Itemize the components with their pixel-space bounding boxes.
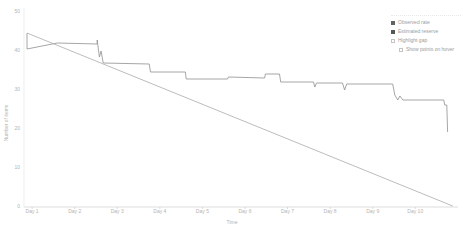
x-tick-label: Day 2: [64, 209, 86, 214]
x-tick-label: Day 10: [404, 209, 426, 214]
legend-item-label: Show points on hover: [406, 47, 454, 52]
legend-item-highlight-gap[interactable]: Highlight gap: [391, 38, 461, 43]
x-tick-label: Day 1: [21, 209, 43, 214]
x-tick-label: Day 4: [149, 209, 171, 214]
y-tick-label: 40: [4, 48, 20, 53]
series-swatch-icon: [391, 30, 395, 34]
x-tick-label: Day 8: [319, 209, 341, 214]
legend-item-observed-rate[interactable]: Observed rate: [391, 20, 461, 25]
x-tick-label: Day 3: [106, 209, 128, 214]
x-axis-title: Time: [0, 220, 464, 225]
chart-window: Day 1Day 2Day 3Day 4Day 5Day 6Day 7Day 8…: [0, 0, 464, 236]
y-axis-title: Number of items: [4, 105, 9, 142]
y-tick-label: 0: [4, 204, 20, 209]
x-tick-label: Day 9: [362, 209, 384, 214]
checkbox-icon[interactable]: [391, 39, 395, 43]
x-tick-label: Day 5: [191, 209, 213, 214]
checkbox-icon[interactable]: [399, 48, 403, 52]
legend-item-label: Estimated reserve: [398, 29, 438, 34]
series-swatch-icon: [391, 21, 395, 25]
y-tick-label: 50: [4, 9, 20, 14]
series-line-0: [27, 33, 448, 132]
legend-item-label: Observed rate: [398, 20, 430, 25]
legend-item-estimated-reserve[interactable]: Estimated reserve: [391, 29, 461, 34]
x-tick-label: Day 7: [277, 209, 299, 214]
y-tick-label: 30: [4, 87, 20, 92]
x-tick-label: Day 6: [234, 209, 256, 214]
legend-item-label: Highlight gap: [398, 38, 427, 43]
series-line-1: [27, 33, 453, 206]
y-tick-label: 10: [4, 165, 20, 170]
legend: Observed rate Estimated reserve Highligh…: [391, 15, 461, 56]
legend-item-show-points-on-hover[interactable]: Show points on hover: [399, 47, 461, 52]
